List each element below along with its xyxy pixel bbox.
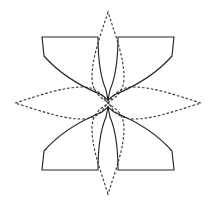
rosette-diagram: Eight-petal rosette geometric constructi… (0, 0, 216, 208)
figure-canvas: Eight-petal rosette geometric constructi… (0, 0, 216, 208)
background-rect (0, 0, 216, 208)
